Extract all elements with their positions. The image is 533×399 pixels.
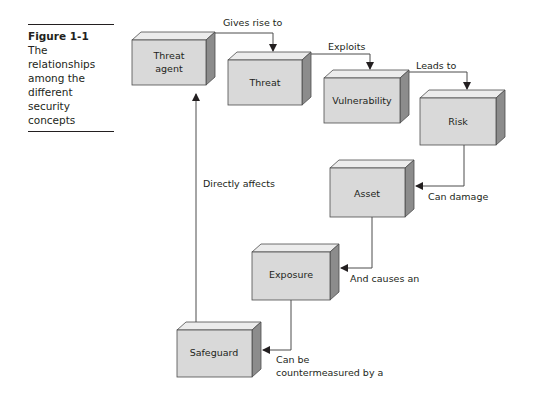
node-label: Exposure bbox=[269, 269, 313, 280]
node-label: Vulnerability bbox=[332, 95, 392, 106]
edge-label-can-damage: Can damage bbox=[428, 191, 488, 202]
edge-countermeasured bbox=[263, 300, 291, 350]
edge-can-damage bbox=[416, 145, 464, 186]
edge-label-leads-to: Leads to bbox=[416, 60, 457, 71]
node-asset: Asset bbox=[330, 160, 414, 217]
edge-gives-rise-to bbox=[215, 33, 273, 51]
edge-label-exploits: Exploits bbox=[328, 41, 365, 52]
edge-label-countermeasured-by-a: countermeasured by a bbox=[276, 367, 383, 378]
node-risk: Risk bbox=[420, 90, 505, 145]
edge-and-causes-an bbox=[341, 217, 372, 268]
edge-label-and-causes-an: And causes an bbox=[350, 273, 419, 284]
node-label: Threat bbox=[153, 50, 185, 61]
node-exposure: Exposure bbox=[252, 244, 339, 300]
node-threat-agent: Threat agent bbox=[132, 32, 215, 85]
node-label: Threat bbox=[249, 77, 281, 88]
node-label: Safeguard bbox=[190, 347, 239, 358]
security-concepts-diagram: Gives rise to Exploits Leads to Can dama… bbox=[0, 0, 533, 399]
edge-label-can-be: Can be bbox=[276, 354, 310, 365]
node-safeguard: Safeguard bbox=[177, 322, 261, 377]
edge-exploits bbox=[311, 54, 370, 69]
node-label: Risk bbox=[448, 116, 468, 127]
node-threat: Threat bbox=[228, 52, 311, 105]
node-vulnerability: Vulnerability bbox=[324, 70, 409, 123]
node-label: agent bbox=[155, 63, 183, 74]
node-label: Asset bbox=[354, 188, 380, 199]
edge-label-gives-rise-to: Gives rise to bbox=[223, 17, 283, 28]
edge-leads-to bbox=[409, 72, 467, 89]
edge-label-directly-affects: Directly affects bbox=[203, 178, 275, 189]
